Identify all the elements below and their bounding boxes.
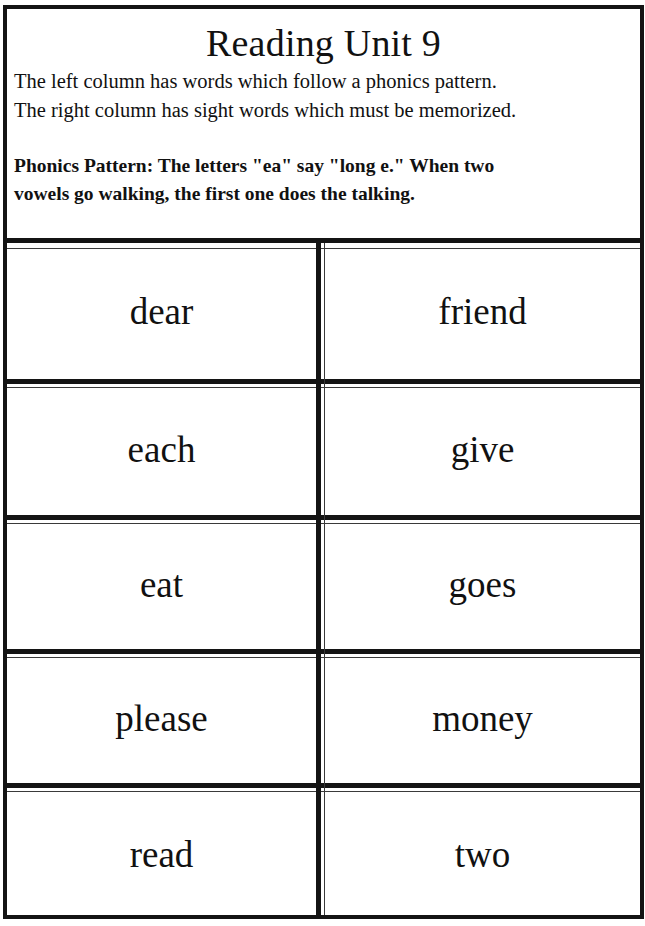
phonics-word-cell: each <box>7 384 316 515</box>
column-divider-thin <box>324 243 325 915</box>
phonics-word-cell: eat <box>7 520 316 649</box>
phonics-pattern-text: Phonics Pattern: The letters "ea" say "l… <box>14 152 639 208</box>
sight-word-cell: money <box>325 654 640 783</box>
column-divider-thick <box>316 243 321 915</box>
phonics-word: each <box>128 428 196 471</box>
sight-word-cell: friend <box>325 243 640 379</box>
phonics-word-cell: dear <box>7 243 316 379</box>
phonics-word-cell: please <box>7 654 316 783</box>
phonics-word: please <box>115 697 207 740</box>
sight-word: goes <box>449 563 517 606</box>
sight-word-cell: give <box>325 384 640 515</box>
word-grid: dear friend each give eat goes <box>7 243 640 915</box>
intro-text: The left column has words which follow a… <box>14 67 639 125</box>
worksheet-header: Reading Unit 9 The left column has words… <box>7 9 640 243</box>
page-title: Reading Unit 9 <box>7 21 640 65</box>
pattern-line-1: Phonics Pattern: The letters "ea" say "l… <box>14 152 639 180</box>
intro-line-right-column: The right column has sight words which m… <box>14 96 639 125</box>
sight-word: two <box>455 833 511 876</box>
sight-word: give <box>451 428 515 471</box>
sight-word: money <box>432 697 533 740</box>
pattern-line-2: vowels go walking, the first one does th… <box>14 180 639 208</box>
phonics-word: eat <box>140 563 183 606</box>
phonics-word: dear <box>130 290 194 333</box>
sight-word-cell: goes <box>325 520 640 649</box>
worksheet: Reading Unit 9 The left column has words… <box>3 5 644 919</box>
phonics-word: read <box>130 833 194 876</box>
intro-line-left-column: The left column has words which follow a… <box>14 67 639 96</box>
sight-word: friend <box>438 290 526 333</box>
phonics-word-cell: read <box>7 788 316 920</box>
sight-word-cell: two <box>325 788 640 920</box>
